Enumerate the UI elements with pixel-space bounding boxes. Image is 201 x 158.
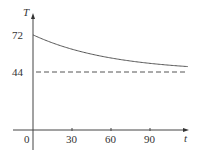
origin-label: 0: [24, 133, 30, 145]
y-axis-arrow-icon: [31, 13, 35, 19]
temperature-curve: [33, 35, 188, 67]
y-tick-72: 72: [12, 29, 23, 41]
chart: T 72 44 0 30 60 90 t: [0, 0, 201, 158]
y-axis-label: T: [23, 6, 30, 18]
x-tick-90: 90: [144, 133, 156, 145]
y-tick-44: 44: [12, 66, 24, 78]
x-tick-30: 30: [66, 133, 78, 145]
x-axis-label: t: [184, 132, 188, 144]
x-tick-60: 60: [105, 133, 117, 145]
